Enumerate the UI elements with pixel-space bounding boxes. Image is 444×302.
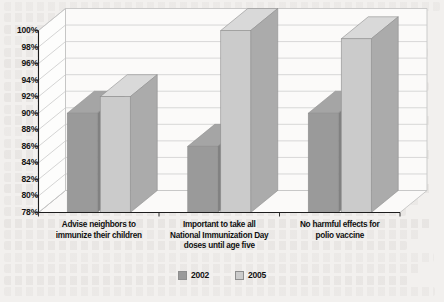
legend-item-2002: 2002: [178, 270, 209, 280]
plot-side-wall: [39, 9, 66, 213]
bar-2005-cat2: [221, 9, 278, 213]
bar-front-face: [188, 146, 218, 212]
legend-label: 2002: [191, 270, 209, 280]
bar-2005-cat3: [341, 17, 398, 213]
bar-side-face: [371, 17, 398, 213]
legend-label: 2005: [248, 270, 266, 280]
bar-front-face: [67, 113, 97, 212]
bar-side-face: [251, 9, 278, 213]
bar-front-face: [100, 97, 130, 213]
legend-swatch: [178, 271, 187, 280]
bar-front-face: [221, 31, 251, 213]
bar-front-face: [341, 39, 371, 213]
bar-front-face: [308, 113, 338, 212]
bar-side-face: [130, 75, 157, 213]
legend-swatch: [235, 271, 244, 280]
chart-legend: 20022005: [0, 270, 444, 280]
bar-chart: [0, 0, 444, 302]
legend-item-2005: 2005: [235, 270, 266, 280]
bar-2005-cat1: [100, 75, 157, 213]
